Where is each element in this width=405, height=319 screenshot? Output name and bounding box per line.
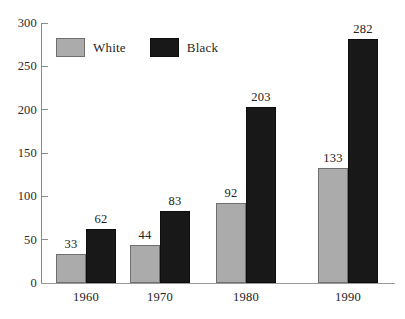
bar-black-1990 <box>348 39 378 283</box>
plot-area: 3362448392203133282 <box>42 23 395 283</box>
y-tick-label: 0 <box>1 277 37 290</box>
y-tick-label: 250 <box>1 60 37 73</box>
x-category-label-1970: 1970 <box>120 291 200 304</box>
bar-white-1960 <box>56 254 86 283</box>
bar-black-1960 <box>86 229 116 283</box>
bar-value-label: 203 <box>238 91 284 104</box>
bar-value-label: 282 <box>340 23 386 36</box>
bar-white-1970 <box>130 245 160 283</box>
x-category-label-1960: 1960 <box>46 291 126 304</box>
y-tick-label: 200 <box>1 104 37 117</box>
y-tick-label: 100 <box>1 190 37 203</box>
bar-value-label: 62 <box>78 213 124 226</box>
bar-black-1980 <box>246 107 276 283</box>
y-tick-label: 300 <box>1 17 37 30</box>
y-tick-label: 50 <box>1 234 37 247</box>
bar-value-label: 83 <box>152 195 198 208</box>
bar-white-1990 <box>318 168 348 283</box>
bar-chart: 050100150200250300 White Black 336244839… <box>0 0 405 319</box>
y-tick-label: 150 <box>1 147 37 160</box>
x-category-label-1980: 1980 <box>206 291 286 304</box>
bar-white-1980 <box>216 203 246 283</box>
x-category-label-1990: 1990 <box>308 291 388 304</box>
x-axis-line <box>41 283 395 284</box>
bar-black-1970 <box>160 211 190 283</box>
